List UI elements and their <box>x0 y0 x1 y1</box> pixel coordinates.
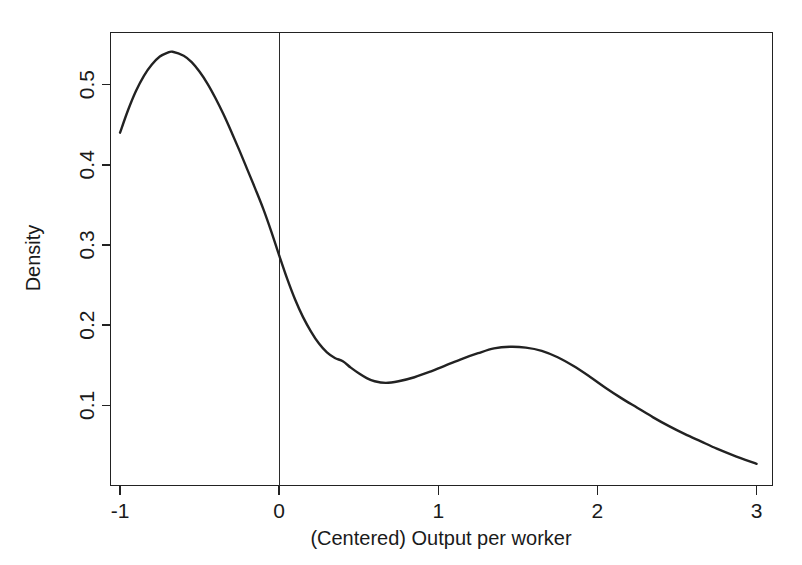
figure-background <box>0 0 802 565</box>
x-tick-label: 1 <box>432 499 444 522</box>
x-tick-label: -1 <box>111 499 130 522</box>
y-tick-label: 0.5 <box>75 70 98 99</box>
x-tick-label: 2 <box>592 499 604 522</box>
y-axis-title: Density <box>22 225 44 292</box>
y-tick-label: 0.1 <box>75 391 98 420</box>
plot-canvas: 0.10.20.30.40.5 -10123 (Centered) Output… <box>0 0 802 565</box>
density-plot-figure: 0.10.20.30.40.5 -10123 (Centered) Output… <box>0 0 802 565</box>
y-tick-label: 0.2 <box>75 311 98 340</box>
y-tick-label: 0.4 <box>75 150 98 180</box>
x-axis-title: (Centered) Output per worker <box>310 527 572 549</box>
x-tick-label: 0 <box>273 499 285 522</box>
x-tick-label: 3 <box>751 499 763 522</box>
y-tick-label: 0.3 <box>75 230 98 259</box>
